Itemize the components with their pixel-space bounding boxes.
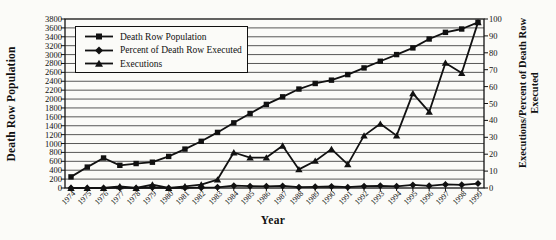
series-marker-square xyxy=(199,139,204,144)
series-marker-square xyxy=(378,59,383,64)
diamond-marker-icon xyxy=(84,45,114,56)
legend-item-label: Death Row Population xyxy=(120,32,207,42)
series-marker-diamond xyxy=(295,184,302,191)
series-marker-square xyxy=(166,154,171,159)
series-marker-square xyxy=(426,36,431,41)
legend-item-label: Percent of Death Row Executed xyxy=(120,45,242,55)
series-marker-square xyxy=(133,161,138,166)
series-marker-triangle xyxy=(328,146,335,152)
y-right-axis-title-line2: Executed xyxy=(529,18,541,168)
series-marker-diamond xyxy=(328,183,335,190)
series-marker-triangle xyxy=(442,60,449,66)
series-marker-square xyxy=(296,86,301,91)
series-marker-square xyxy=(394,52,399,57)
legend-item-label: Executions xyxy=(120,59,162,69)
series-marker-square xyxy=(231,120,236,125)
legend-item: Death Row Population xyxy=(84,30,247,44)
series-marker-square xyxy=(117,163,122,168)
series-marker-square xyxy=(101,155,106,160)
series-marker-diamond xyxy=(475,180,482,187)
series-marker-diamond xyxy=(312,183,319,190)
y-right-axis-title: Executions/Percent of Death Row Executed xyxy=(517,18,541,168)
triangle-marker-icon xyxy=(84,58,114,69)
x-axis-title: Year xyxy=(261,214,286,226)
series-marker-diamond xyxy=(214,184,221,191)
series-marker-square xyxy=(85,164,90,169)
series-marker-square xyxy=(182,146,187,151)
series-marker-square xyxy=(329,77,334,82)
series-marker-diamond xyxy=(393,183,400,190)
series-marker-diamond xyxy=(344,184,351,191)
series-marker-square xyxy=(150,160,155,165)
series-marker-square xyxy=(264,102,269,107)
series-marker-square xyxy=(443,30,448,35)
legend-item: Percent of Death Row Executed xyxy=(84,44,247,58)
series-marker-square xyxy=(410,45,415,50)
square-marker-icon xyxy=(84,31,114,42)
y-right-axis-title-line1: Executions/Percent of Death Row xyxy=(517,18,529,168)
series-marker-square xyxy=(361,65,366,70)
y-left-axis-title: Death Row Population xyxy=(5,46,17,161)
series-marker-square xyxy=(345,72,350,77)
series-marker-square xyxy=(459,26,464,31)
series-marker-square xyxy=(215,130,220,135)
chart-container: Death Row Population Executions/Percent … xyxy=(0,0,556,240)
series-marker-square xyxy=(280,94,285,99)
series-marker-square xyxy=(68,174,73,179)
series-marker-diamond xyxy=(442,181,449,188)
series-marker-triangle xyxy=(409,90,416,96)
series-marker-diamond xyxy=(263,183,270,190)
series-marker-diamond xyxy=(458,181,465,188)
series-marker-square xyxy=(247,111,252,116)
legend-item: Executions xyxy=(84,57,247,71)
series-marker-square xyxy=(313,81,318,86)
series-marker-triangle xyxy=(377,120,384,126)
legend: Death Row PopulationPercent of Death Row… xyxy=(75,26,248,73)
